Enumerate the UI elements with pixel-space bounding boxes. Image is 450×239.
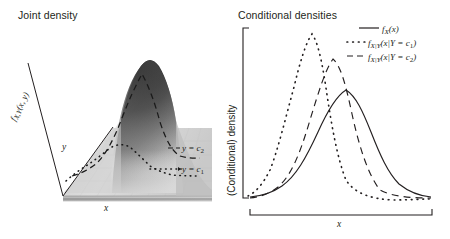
x-axis-label-left: x bbox=[104, 203, 108, 213]
slice-label-y-c1-text: y = c bbox=[182, 164, 201, 174]
x-axis-label-right: x bbox=[337, 219, 341, 229]
y-axis-label-left: y bbox=[62, 142, 66, 152]
legend-label-fxy-c2-argtail: ) bbox=[413, 52, 416, 62]
legend-label-fxy-c2-sub: X|Y bbox=[371, 56, 381, 64]
legend-label-fxy-c1-argtail: ) bbox=[413, 38, 416, 48]
x-axis-bracket bbox=[250, 209, 432, 215]
legend-label-fxy-c1-arg: (x|Y = c bbox=[381, 38, 410, 48]
slice-label-y-c1: y = c1 bbox=[182, 164, 204, 176]
slice-label-y-c1-sub: 1 bbox=[201, 168, 205, 176]
legend-label-fxy-c1: fX|Y(x|Y = c1) bbox=[368, 38, 416, 50]
conditional-densities-panel bbox=[218, 0, 450, 239]
legend-label-fxy-c2: fX|Y(x|Y = c2) bbox=[368, 52, 416, 64]
legend-label-fxy-c1-sub: X|Y bbox=[371, 42, 381, 50]
joint-density-panel bbox=[0, 0, 225, 239]
y-axis-bracket bbox=[243, 28, 249, 198]
joint-density-title: Joint density bbox=[18, 9, 78, 21]
slice-label-y-c2: y = c2 bbox=[182, 143, 204, 155]
conditional-densities-title: Conditional densities bbox=[238, 9, 337, 21]
y-axis-label-right: (Conditional) density bbox=[226, 105, 237, 196]
slice-label-y-c2-text: y = c bbox=[182, 143, 201, 153]
figure-root: Joint density fX,Y(x, y) y x y = c2 y = … bbox=[0, 0, 450, 239]
curve-fxy-c2 bbox=[250, 59, 431, 198]
legend-label-fxy-c2-arg: (x|Y = c bbox=[381, 52, 410, 62]
curve-fx bbox=[250, 90, 431, 197]
slice-label-y-c2-sub: 2 bbox=[201, 147, 205, 155]
legend-label-fx: fX(x) bbox=[382, 24, 399, 36]
z-axis bbox=[28, 63, 63, 196]
legend-label-fx-arg: (x) bbox=[389, 24, 399, 34]
